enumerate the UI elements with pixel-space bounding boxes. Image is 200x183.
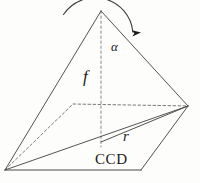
pyramid-solid-edges bbox=[5, 11, 188, 170]
edge-apex-to-right bbox=[101, 11, 188, 106]
ccd-geometry-figure: α f r CCD bbox=[0, 0, 200, 183]
radius-label: r bbox=[123, 129, 129, 144]
ccd-sensor-label: CCD bbox=[95, 152, 128, 167]
focal-length-label: f bbox=[83, 68, 88, 85]
angle-alpha-label: α bbox=[111, 40, 118, 53]
edge-apex-to-front-left bbox=[5, 11, 101, 170]
hidden-edge-back bbox=[73, 104, 188, 106]
